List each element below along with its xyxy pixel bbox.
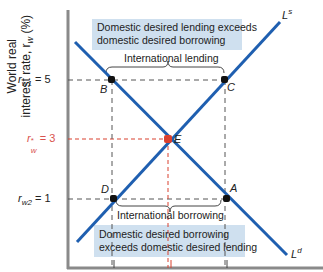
y-axis-label: World real interest rate, rw (%) <box>0 4 54 134</box>
point-B <box>108 76 115 83</box>
point-E <box>164 135 172 143</box>
label-B: B <box>100 83 107 95</box>
lending-demand-curve <box>75 42 287 255</box>
label-Ld: Ld <box>291 246 302 260</box>
y-axis-label-line2: interest rate, rw (%) <box>19 1 37 131</box>
label-C: C <box>227 81 235 93</box>
loanable-funds-chart: World real interest rate, rw (%) rw1 = 5… <box>0 0 323 272</box>
label-A: A <box>230 182 237 194</box>
y-axis-label-line1: World real <box>5 1 19 131</box>
label-Ls: Ls <box>282 7 292 21</box>
point-D <box>110 195 117 202</box>
bottom-annotation-box: Domestic desired borrowing exceeds domes… <box>94 226 262 256</box>
label-D: D <box>101 183 109 195</box>
tick-rw2: rw2 = 1 <box>18 192 51 207</box>
tick-rw1: rw1 = 5 <box>18 73 51 88</box>
top-annotation-box: Domestic desired lending exceeds domesti… <box>92 19 262 49</box>
point-A <box>223 195 230 202</box>
label-E: E <box>174 133 181 145</box>
intl-borrowing-label: International borrowing <box>117 209 224 221</box>
tick-rwstar: r*w = 3 <box>27 132 55 144</box>
intl-lending-label: International lending <box>124 52 219 64</box>
